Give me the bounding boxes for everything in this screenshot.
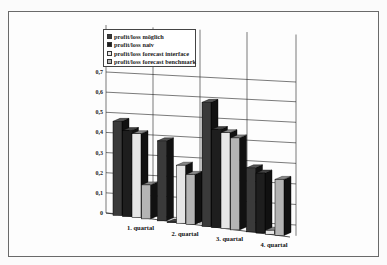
legend-swatch: [107, 34, 112, 39]
bar-side: [151, 182, 158, 219]
bar: [231, 138, 240, 230]
legend-item-interface: profit/loss forecast interface: [107, 49, 192, 58]
y-tick-label: 0,3: [96, 150, 104, 156]
bar-side: [265, 170, 272, 233]
x-tick-label: 4. quartal: [261, 241, 288, 248]
bar: [266, 230, 275, 234]
legend-item-moeglich: profit/loss möglich: [107, 32, 192, 41]
legend-item-naiv: profit/loss naiv: [107, 41, 192, 50]
bar: [158, 141, 167, 221]
y-tick-label: 0,2: [96, 170, 104, 176]
bar: [275, 179, 284, 235]
y-tick-label: 0,5: [96, 109, 104, 115]
legend-item-benchmark: profit/loss forecast benchmark: [107, 58, 192, 67]
bar: [186, 174, 195, 224]
bar: [177, 165, 186, 223]
y-tick-label: 0,7: [96, 69, 104, 75]
bar: [123, 131, 132, 217]
legend-swatch: [107, 59, 112, 64]
y-tick-label: 0,6: [96, 89, 104, 95]
bar: [247, 168, 256, 232]
legend-swatch: [107, 51, 112, 56]
legend-swatch: [107, 42, 112, 47]
bar: [221, 133, 230, 229]
y-tick-label: 0,4: [96, 129, 104, 135]
bar-side: [284, 176, 291, 235]
bar: [202, 102, 211, 226]
bar: [113, 121, 122, 215]
bar: [142, 185, 151, 219]
bar: [212, 130, 221, 228]
x-tick-label: 2. quartal: [172, 230, 199, 237]
x-tick-label: 3. quartal: [216, 235, 243, 242]
bar-side: [240, 135, 247, 230]
y-tick-label: 0: [100, 210, 103, 216]
bar-side: [167, 138, 174, 221]
bar: [132, 134, 141, 218]
bar-side: [195, 171, 202, 224]
y-tick-label: 0,1: [96, 190, 104, 196]
x-tick-label: 1. quartal: [127, 224, 154, 231]
bar: [256, 173, 265, 233]
chart-legend: profit/loss möglich profit/loss naiv pro…: [103, 29, 196, 67]
bar: [167, 222, 176, 223]
